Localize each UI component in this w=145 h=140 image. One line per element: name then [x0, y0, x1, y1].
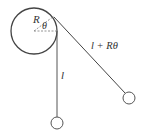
vertical-bob-circle [51, 117, 63, 129]
angle-label: θ [42, 20, 47, 31]
diagonal-string [54, 17, 125, 93]
diagram-svg: R θ l l + Rθ [0, 0, 145, 140]
swung-bob-circle [123, 92, 135, 104]
radius-label: R [32, 13, 40, 25]
diagonal-length-label: l + Rθ [91, 40, 118, 51]
vertical-length-label: l [61, 69, 64, 81]
pendulum-diagram: R θ l l + Rθ [0, 0, 145, 140]
